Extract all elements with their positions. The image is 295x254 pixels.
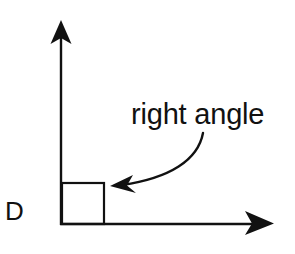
right-angle-marker bbox=[62, 183, 104, 224]
vertex-label: D bbox=[5, 197, 24, 225]
annotation-arrow bbox=[110, 133, 203, 193]
annotation-label: right angle bbox=[131, 98, 264, 130]
